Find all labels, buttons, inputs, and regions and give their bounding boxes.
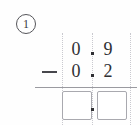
subtraction-rule-line [35, 87, 137, 88]
column-guide-line-right [130, 33, 131, 125]
problem-number-badge: 1 [16, 14, 36, 34]
answer-box-ones[interactable] [62, 91, 92, 120]
minuend-tenths-digit: 9 [98, 37, 118, 61]
answer-box-tenths[interactable] [97, 91, 127, 120]
answer-decimal-point-icon [91, 108, 94, 111]
minuend-decimal-point-icon [91, 52, 94, 55]
subtrahend-row: 0 2 [62, 59, 130, 83]
problem-number-label: 1 [23, 18, 29, 30]
minus-operator-icon [42, 71, 57, 73]
minuend-row: 0 9 [62, 37, 130, 61]
subtrahend-ones-digit: 0 [66, 59, 86, 83]
subtrahend-tenths-digit: 2 [98, 59, 118, 83]
subtraction-worksheet-problem: 1 0 9 0 2 [0, 0, 140, 125]
subtrahend-decimal-point-icon [91, 74, 94, 77]
minuend-ones-digit: 0 [66, 37, 86, 61]
